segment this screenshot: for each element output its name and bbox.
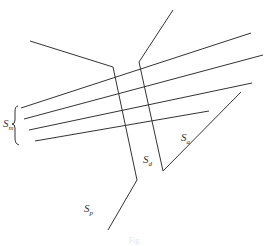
right-boundary-line <box>139 10 241 171</box>
label-sm: Sm <box>3 118 14 132</box>
line-drawing <box>0 0 270 246</box>
label-sd: Sd <box>143 154 152 168</box>
diagram-canvas: Sm Sd Sa Sp Fig. <box>0 0 270 246</box>
parallel-line-1 <box>21 33 251 108</box>
label-sp: Sp <box>84 203 93 217</box>
figure-caption: Fig. <box>0 236 270 245</box>
label-sa: Sa <box>181 132 190 146</box>
parallel-line-2 <box>24 55 263 119</box>
